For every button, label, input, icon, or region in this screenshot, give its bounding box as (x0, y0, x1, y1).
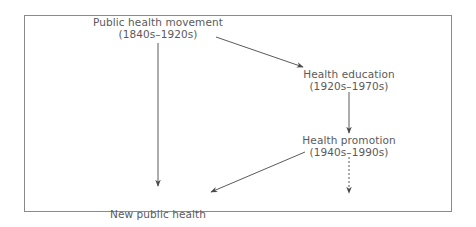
arrow-phm-to-health-education (216, 37, 303, 67)
node-period: (1940s–1990s) (302, 147, 395, 159)
node-title: New public health (110, 209, 206, 221)
node-public-health-movement: Public health movement (1840s–1920s) (93, 17, 223, 40)
node-period: (1920s–1970s) (303, 81, 395, 93)
node-title: Health education (303, 69, 395, 81)
node-title: Public health movement (93, 17, 223, 29)
node-health-promotion: Health promotion (1940s–1990s) (302, 135, 395, 158)
node-title: Health promotion (302, 135, 395, 147)
connector-layer (0, 0, 476, 227)
node-health-education: Health education (1920s–1970s) (303, 69, 395, 92)
arrow-health-promotion-to-new-public-health (211, 152, 305, 192)
node-period: (1840s–1920s) (93, 29, 223, 41)
node-new-public-health: New public health (1980s– ) (110, 186, 206, 227)
